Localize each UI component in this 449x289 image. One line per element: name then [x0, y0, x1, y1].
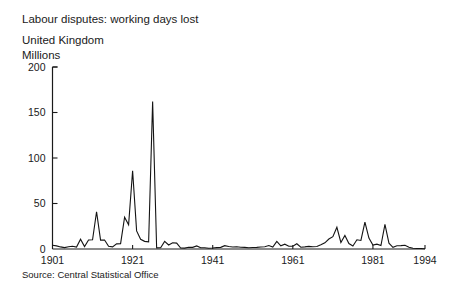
x-tick-label-group: 190119211941196119811994: [41, 254, 437, 266]
y-tick-label: 100: [28, 152, 46, 164]
x-tick-label: 1921: [121, 254, 145, 266]
tick-mark-group: [53, 67, 426, 249]
x-tick-label: 1901: [41, 254, 65, 266]
y-tick-label: 50: [34, 197, 46, 209]
chart-screenshot: Labour disputes: working days lost Unite…: [0, 0, 449, 289]
y-tick-label: 150: [28, 106, 46, 118]
data-series-line: [53, 101, 426, 248]
x-tick-label: 1961: [281, 254, 305, 266]
x-tick-label: 1994: [413, 254, 437, 266]
x-tick-label: 1981: [361, 254, 385, 266]
y-tick-label-group: 050100150200: [28, 61, 46, 255]
y-tick-label: 0: [40, 243, 46, 255]
x-tick-label: 1941: [201, 254, 225, 266]
y-tick-label: 200: [28, 61, 46, 73]
chart-plot-area: 050100150200 190119211941196119811994: [0, 0, 449, 289]
